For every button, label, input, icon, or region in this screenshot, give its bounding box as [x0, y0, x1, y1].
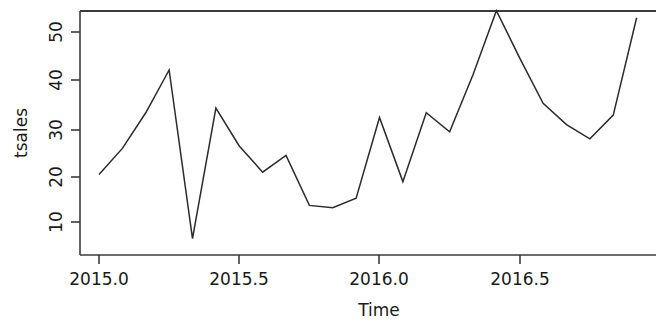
- x-tick-label-2016-5: 2016.5: [490, 269, 549, 289]
- y-tick-label-10: 10: [46, 211, 66, 233]
- y-tick-label-40: 40: [46, 69, 66, 91]
- x-axis-tick-labels: 2015.0 2015.5 2016.0 2016.5: [69, 269, 549, 289]
- y-axis-ticks: [71, 32, 80, 222]
- x-tick-label-2016-0: 2016.0: [349, 269, 408, 289]
- chart-container: 50 40 30 20 10 2015.0 2015.5 2016.0 2016…: [0, 0, 656, 323]
- y-axis-tick-labels: 50 40 30 20 10: [46, 21, 66, 233]
- x-tick-label-2015-5: 2015.5: [209, 269, 268, 289]
- y-tick-label-30: 30: [46, 119, 66, 141]
- y-tick-label-20: 20: [46, 166, 66, 188]
- x-axis-title: Time: [357, 300, 400, 320]
- x-tick-label-2015-0: 2015.0: [69, 269, 128, 289]
- x-axis-ticks: [99, 255, 520, 264]
- tsales-time-series-chart: 50 40 30 20 10 2015.0 2015.5 2016.0 2016…: [0, 0, 656, 323]
- y-tick-label-50: 50: [46, 21, 66, 43]
- y-axis-title: tsales: [11, 108, 31, 158]
- series-line-tsales: [99, 11, 637, 239]
